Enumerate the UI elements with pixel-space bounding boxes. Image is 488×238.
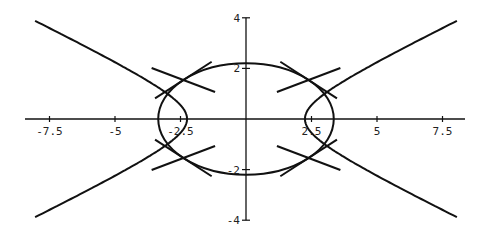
axes bbox=[25, 18, 465, 220]
y-tick-label: 2 bbox=[233, 62, 240, 75]
x-tick-label: 2.5 bbox=[302, 125, 322, 138]
y-tick-label: 4 bbox=[233, 12, 240, 25]
y-tick-label: -4 bbox=[227, 214, 241, 227]
x-tick-label: 5 bbox=[374, 125, 381, 138]
x-tick-label: 7.5 bbox=[433, 125, 453, 138]
conic-plot: -7.5-5-2.52.557.5-4-224 bbox=[0, 0, 488, 238]
y-tick-label: -2 bbox=[227, 164, 240, 177]
x-tick-label: -7.5 bbox=[36, 125, 63, 138]
plot-canvas: -7.5-5-2.52.557.5-4-224 bbox=[0, 0, 488, 238]
x-tick-label: -2.5 bbox=[167, 125, 194, 138]
x-tick-label: -5 bbox=[108, 125, 121, 138]
